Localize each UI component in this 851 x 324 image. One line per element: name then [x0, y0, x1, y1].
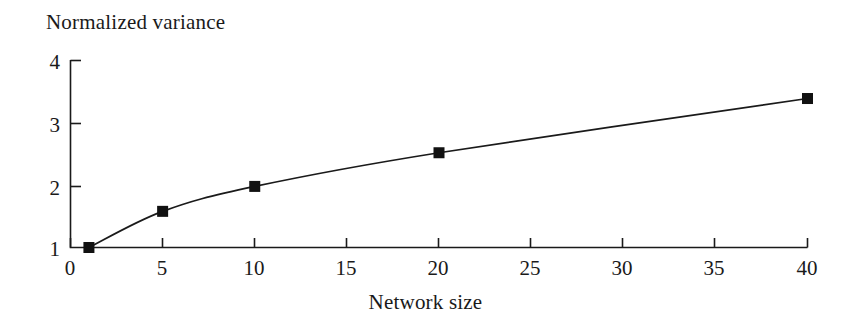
x-axis-ticks — [71, 238, 808, 248]
data-point-marker — [83, 242, 94, 253]
x-tick-label-0: 0 — [65, 258, 76, 279]
series-markers — [83, 93, 813, 253]
x-tick-label-30: 30 — [612, 258, 633, 279]
data-series-normalized-variance — [83, 93, 813, 253]
y-tick-label-3: 3 — [40, 115, 60, 136]
data-point-marker — [249, 181, 260, 192]
x-tick-label-20: 20 — [428, 258, 449, 279]
data-point-marker — [434, 147, 445, 158]
x-tick-label-25: 25 — [520, 258, 541, 279]
chart-figure: Normalized variance 4 3 2 1 0 5 — [0, 0, 851, 324]
x-tick-label-10: 10 — [244, 258, 265, 279]
data-point-marker — [802, 93, 813, 104]
x-tick-label-15: 15 — [336, 258, 357, 279]
y-tick-label-1: 1 — [40, 239, 60, 260]
y-tick-label-2: 2 — [40, 178, 60, 199]
data-point-marker — [157, 206, 168, 217]
y-axis-ticks — [71, 61, 82, 187]
x-axis-title: Network size — [0, 292, 851, 313]
x-tick-label-40: 40 — [797, 258, 818, 279]
y-tick-label-4: 4 — [40, 52, 60, 73]
x-tick-label-35: 35 — [704, 258, 725, 279]
series-line — [89, 99, 808, 248]
x-tick-label-5: 5 — [157, 258, 168, 279]
